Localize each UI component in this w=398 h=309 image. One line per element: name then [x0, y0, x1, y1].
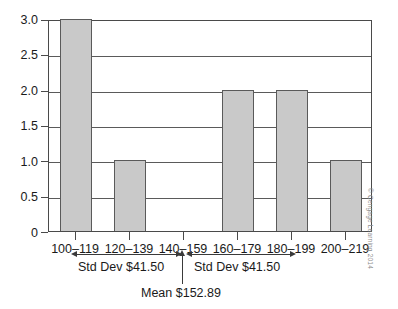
x-tick-mark-5: [345, 232, 346, 240]
gridline-0-5: [49, 198, 371, 199]
plot-area: [48, 20, 372, 232]
y-tick-label-2-5: 2.5: [8, 49, 38, 62]
x-tick-label-200-219: 200–219: [318, 243, 372, 256]
x-tick-mark-3: [237, 232, 238, 240]
std-dev-right-arrowhead-end: [290, 251, 296, 257]
mean-marker-stem: [182, 256, 183, 284]
mean-label: Mean $152.89: [141, 287, 221, 300]
x-tick-mark-1: [129, 232, 130, 240]
y-tick-label-0: 0: [8, 227, 38, 240]
std-dev-right-arrowhead-start: [186, 251, 192, 257]
std-dev-right-label: Std Dev $41.50: [194, 261, 280, 274]
mean-marker-arrowhead: [179, 250, 185, 256]
bar-100-119: [60, 19, 92, 231]
gridline-2-0: [49, 92, 371, 93]
y-tick-mark-1-0: [41, 161, 48, 162]
y-tick-mark-0-5: [41, 197, 48, 198]
gridline-1-5: [49, 127, 371, 128]
y-tick-label-3-0: 3.0: [8, 14, 38, 27]
y-tick-mark-1-5: [41, 126, 48, 127]
y-tick-label-1-0: 1.0: [8, 156, 38, 169]
bar-180-199: [276, 90, 308, 231]
std-dev-left-arrow-line: [77, 254, 176, 255]
gridline-2-5: [49, 56, 371, 57]
bar-120-139: [114, 160, 146, 231]
y-tick-mark-2-0: [41, 91, 48, 92]
y-tick-mark-2-5: [41, 55, 48, 56]
y-tick-mark-0: [41, 232, 48, 233]
gridline-1-0: [49, 162, 371, 163]
bar-160-179: [222, 90, 254, 231]
x-tick-mark-0: [75, 232, 76, 240]
y-tick-label-0-5: 0.5: [8, 191, 38, 204]
x-tick-mark-2: [183, 232, 184, 240]
y-tick-label-2-0: 2.0: [8, 85, 38, 98]
histogram-figure: 3.0 2.5 2.0 1.5 1.0 0.5 0 100–119 120–13…: [0, 0, 398, 309]
y-tick-mark-3-0: [41, 20, 48, 21]
x-tick-mark-4: [291, 232, 292, 240]
std-dev-left-arrowhead-start: [71, 251, 77, 257]
y-axis: 3.0 2.5 2.0 1.5 1.0 0.5 0: [0, 0, 38, 309]
std-dev-right-arrow-line: [192, 254, 290, 255]
copyright-notice: © Cengage Learning 2014: [367, 188, 374, 269]
std-dev-left-label: Std Dev $41.50: [78, 261, 164, 274]
y-tick-label-1-5: 1.5: [8, 120, 38, 133]
bar-200-219: [330, 160, 362, 231]
